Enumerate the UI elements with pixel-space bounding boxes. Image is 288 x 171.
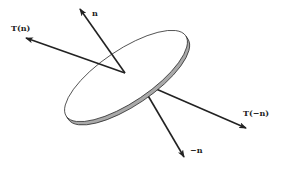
label-negative-normal: −n bbox=[190, 145, 203, 155]
disk-face bbox=[52, 14, 200, 138]
label-traction-negative: T(−n) bbox=[243, 108, 269, 118]
stress-vector-diagram: n T(n) T(−n) −n bbox=[0, 0, 288, 171]
label-normal: n bbox=[92, 8, 98, 18]
label-traction-normal: T(n) bbox=[11, 23, 31, 33]
disk bbox=[52, 14, 203, 141]
